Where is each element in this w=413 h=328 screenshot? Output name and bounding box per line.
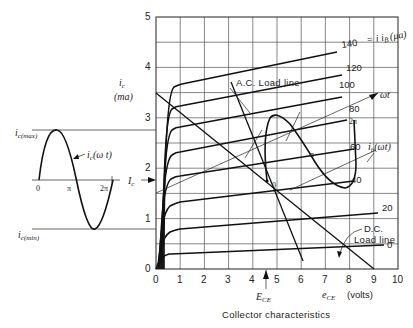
omega-t-label: ωt xyxy=(380,89,390,100)
y-axis-unit: (ma) xyxy=(114,91,134,103)
svg-text:3: 3 xyxy=(225,274,231,285)
ic-dc-label: Ic xyxy=(127,175,135,188)
svg-text:0: 0 xyxy=(153,274,159,285)
wave-zero-label: 0 xyxy=(272,181,276,190)
svg-text:0: 0 xyxy=(145,263,151,274)
svg-text:1: 1 xyxy=(177,274,183,285)
svg-text:3: 3 xyxy=(145,112,151,123)
svg-text:10: 10 xyxy=(392,274,404,285)
svg-text:2π: 2π xyxy=(100,184,108,193)
curve-ib-80 xyxy=(161,120,347,269)
ac-load-line-label: A.C. Load line xyxy=(236,77,300,88)
svg-text:ECE: ECE xyxy=(255,291,272,304)
dc-load-line-label-2: Load line xyxy=(354,234,395,245)
svg-text:7: 7 xyxy=(322,274,328,285)
svg-text:9: 9 xyxy=(371,274,377,285)
svg-text:140: 140 xyxy=(341,37,358,50)
x-axis-unit: (volts) xyxy=(347,289,373,300)
svg-text:100: 100 xyxy=(339,79,355,90)
svg-text:8: 8 xyxy=(346,274,352,285)
ic-wt-label: ic(ω t) xyxy=(87,149,113,162)
svg-text:π: π xyxy=(67,184,71,193)
svg-text:6: 6 xyxy=(298,274,304,285)
svg-text:0: 0 xyxy=(36,184,40,193)
q-point xyxy=(265,179,268,182)
svg-text:20: 20 xyxy=(382,202,393,213)
x-axis-title: eCE xyxy=(322,289,336,302)
svg-text:1: 1 xyxy=(145,213,151,224)
plot-grid xyxy=(156,17,398,269)
y-axis-title: ic xyxy=(119,77,126,90)
ic-max-label: ic(max) xyxy=(15,127,38,140)
ic-min-label: ic(min) xyxy=(18,229,40,242)
dc-load-line-label-1: D.C. xyxy=(364,223,383,234)
svg-text:2: 2 xyxy=(145,162,151,173)
y-axis-ticks: 0 1 2 3 4 5 xyxy=(145,11,151,274)
curve-ib-100 xyxy=(162,97,342,269)
figure-caption: Collector characteristics xyxy=(222,309,330,320)
curve-ib-40 xyxy=(159,181,354,269)
svg-text:2: 2 xyxy=(201,274,207,285)
wave-2pi-label: 2π xyxy=(349,117,357,126)
ac-load-line xyxy=(231,82,303,261)
svg-text:80: 80 xyxy=(349,103,360,114)
dc-load-line xyxy=(156,93,374,269)
x-axis-ticks: 0 1 2 3 4 5 6 7 8 9 10 xyxy=(153,274,404,285)
ic-output-wave: 0 π 2π ic(max) ic(min) ic(ω t) Ic xyxy=(15,127,156,242)
svg-text:4: 4 xyxy=(145,61,151,72)
svg-text:5: 5 xyxy=(145,11,151,22)
svg-text:120: 120 xyxy=(346,62,362,73)
svg-text:4: 4 xyxy=(249,274,255,285)
ece-marker: ECE xyxy=(255,270,272,304)
svg-text:= i iB(μa): = i iB(μa) xyxy=(366,28,408,47)
wave-pi-label: π xyxy=(310,150,314,159)
collector-characteristics-figure: 0 1 2 3 4 5 0 1 2 3 4 5 6 7 8 9 10 140 1… xyxy=(0,0,413,328)
projection-lines xyxy=(32,130,156,229)
svg-text:5: 5 xyxy=(274,274,280,285)
